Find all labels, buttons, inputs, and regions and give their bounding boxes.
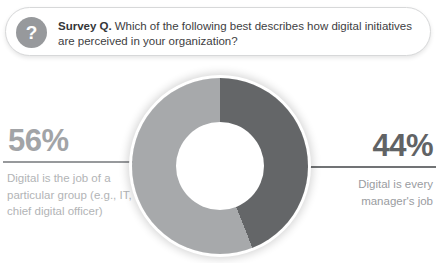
right-stat-value: 44% (372, 130, 433, 161)
left-stat-caption: Digital is the job of a particular group… (7, 170, 132, 220)
right-caption-line-1: Digital is every (358, 176, 433, 193)
survey-question-box: ? Survey Q.Which of the following best d… (5, 7, 431, 56)
left-leader-line (3, 161, 138, 163)
right-leader-line (304, 166, 436, 168)
survey-question-text: Survey Q.Which of the following best des… (58, 19, 424, 49)
left-caption-line-3: chief digital officer) (7, 203, 132, 220)
donut-chart (132, 78, 308, 254)
left-stat-value: 56% (8, 125, 69, 156)
question-mark-icon: ? (16, 17, 47, 48)
survey-question-label: Survey Q. (58, 20, 112, 32)
right-caption-line-2: manager's job (358, 193, 433, 210)
left-caption-line-1: Digital is the job of a (7, 170, 132, 187)
donut-hole (176, 122, 264, 210)
right-stat-caption: Digital is every manager's job (358, 176, 433, 209)
left-caption-line-2: particular group (e.g., IT, (7, 187, 132, 204)
question-mark-glyph: ? (26, 23, 38, 42)
